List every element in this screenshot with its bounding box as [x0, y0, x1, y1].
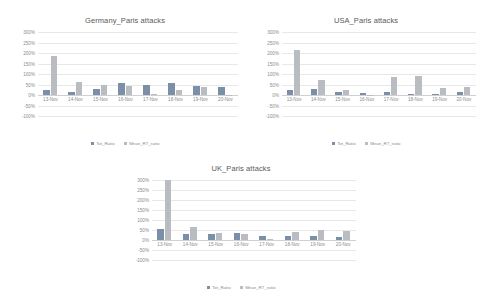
bar-group: 16-Nov: [355, 32, 379, 116]
bar-group: 14-Nov: [178, 180, 204, 260]
gridline: [282, 116, 476, 117]
x-axis-tick-label: 19-Nov: [188, 97, 213, 102]
x-axis-tick-label: 17-Nov: [138, 97, 163, 102]
legend-swatch-icon: [365, 142, 369, 146]
legend-swatch-icon: [91, 142, 95, 146]
bar-tot_ratio: [287, 90, 293, 95]
bar-tot_ratio: [335, 92, 341, 95]
y-axis-tick-label: 300%: [267, 30, 279, 35]
bar-tot_ratio: [168, 83, 175, 95]
x-axis-tick-label: 15-Nov: [331, 97, 355, 102]
chart-title: USA_Paris attacks: [252, 16, 480, 25]
bar-group: 15-Nov: [203, 180, 229, 260]
x-axis-tick-label: 20-Nov: [452, 97, 476, 102]
x-axis-tick-label: 17-Nov: [254, 242, 280, 247]
bar-mean_rt_ratio: [318, 230, 325, 240]
y-axis-tick-label: 50%: [140, 228, 149, 233]
x-axis-tick-label: 19-Nov: [428, 97, 452, 102]
legend-swatch-icon: [207, 286, 211, 290]
y-axis-tick-label: 150%: [267, 61, 279, 66]
bar-group: 15-Nov: [331, 32, 355, 116]
bar-groups: 13-Nov14-Nov15-Nov16-Nov17-Nov18-Nov19-N…: [152, 180, 356, 260]
y-axis-tick-label: 300%: [137, 178, 149, 183]
chart-germany: Germany_Paris attacks 300%250%200%150%10…: [8, 10, 242, 150]
x-axis-tick-label: 18-Nov: [280, 242, 306, 247]
legend-swatch-icon: [332, 142, 336, 146]
legend-label: Mean_RT_ratio: [129, 141, 159, 146]
x-axis-tick-label: 18-Nov: [403, 97, 427, 102]
bar-group: 19-Nov: [428, 32, 452, 116]
bar-group: 13-Nov: [38, 32, 63, 116]
x-axis-tick-label: 18-Nov: [163, 97, 188, 102]
x-axis-tick-label: 19-Nov: [305, 242, 331, 247]
x-axis-tick-label: 20-Nov: [331, 242, 357, 247]
y-axis-tick-label: 100%: [267, 72, 279, 77]
bar-mean_rt_ratio: [292, 232, 299, 240]
bar-tot_ratio: [311, 89, 317, 95]
bar-mean_rt_ratio: [440, 88, 446, 95]
x-axis-tick-label: 14-Nov: [306, 97, 330, 102]
bar-mean_rt_ratio: [101, 85, 108, 95]
bar-tot_ratio: [218, 87, 225, 95]
bar-group: 19-Nov: [305, 180, 331, 260]
x-axis-tick-label: 16-Nov: [113, 97, 138, 102]
bar-tot_ratio: [384, 92, 390, 95]
bar-tot_ratio: [285, 236, 292, 240]
bar-groups: 13-Nov14-Nov15-Nov16-Nov17-Nov18-Nov19-N…: [282, 32, 476, 116]
bar-mean_rt_ratio: [165, 180, 172, 240]
bar-mean_rt_ratio: [241, 234, 248, 240]
bar-tot_ratio: [68, 92, 75, 95]
plot-area: 300%250%200%150%100%50%0%-50%-100% 13-No…: [282, 32, 476, 116]
gridline: [38, 116, 238, 117]
chart-title: UK_Paris attacks: [122, 164, 360, 173]
bar-tot_ratio: [208, 234, 215, 240]
legend-swatch-icon: [240, 286, 244, 290]
y-axis-tick-label: 0%: [272, 93, 279, 98]
bar-mean_rt_ratio: [343, 90, 349, 95]
bar-group: 13-Nov: [282, 32, 306, 116]
y-axis-tick-label: 50%: [26, 82, 35, 87]
bar-mean_rt_ratio: [76, 82, 83, 95]
x-axis-tick-label: 15-Nov: [203, 242, 229, 247]
chart-title: Germany_Paris attacks: [8, 16, 242, 25]
bar-mean_rt_ratio: [294, 50, 300, 95]
bar-mean_rt_ratio: [391, 77, 397, 95]
legend-label: Tot_Ratio: [337, 141, 356, 146]
bar-group: 13-Nov: [152, 180, 178, 260]
bar-mean_rt_ratio: [216, 233, 223, 240]
charts-page: Germany_Paris attacks 300%250%200%150%10…: [0, 0, 484, 298]
bar-tot_ratio: [43, 90, 50, 95]
y-axis-tick-label: 250%: [137, 188, 149, 193]
y-axis-tick-label: -50%: [268, 103, 279, 108]
bar-groups: 13-Nov14-Nov15-Nov16-Nov17-Nov18-Nov19-N…: [38, 32, 238, 116]
bar-mean_rt_ratio: [415, 76, 421, 95]
legend-label: Tot_Ratio: [96, 141, 115, 146]
y-axis-tick-label: 250%: [267, 40, 279, 45]
y-axis-tick-label: 150%: [23, 61, 35, 66]
bar-tot_ratio: [143, 85, 150, 95]
bar-group: 17-Nov: [379, 32, 403, 116]
bar-group: 17-Nov: [138, 32, 163, 116]
bar-group: 19-Nov: [188, 32, 213, 116]
x-axis-tick-label: 16-Nov: [355, 97, 379, 102]
bar-tot_ratio: [310, 236, 317, 240]
bar-tot_ratio: [457, 92, 463, 95]
y-axis-tick-label: 150%: [137, 208, 149, 213]
y-axis-tick-label: -100%: [136, 258, 149, 263]
y-axis-tick-label: -50%: [24, 103, 35, 108]
bar-mean_rt_ratio: [151, 94, 158, 95]
legend-label: Mean_RT_ratio: [370, 141, 400, 146]
bar-mean_rt_ratio: [190, 227, 197, 240]
x-axis-tick-label: 15-Nov: [88, 97, 113, 102]
y-axis-tick-label: 250%: [23, 40, 35, 45]
y-axis-tick-label: 200%: [267, 51, 279, 56]
x-axis-tick-label: 17-Nov: [379, 97, 403, 102]
x-axis-tick-label: 13-Nov: [282, 97, 306, 102]
bar-mean_rt_ratio: [126, 86, 133, 95]
bar-group: 18-Nov: [163, 32, 188, 116]
y-axis-tick-label: 200%: [23, 51, 35, 56]
bar-group: 14-Nov: [306, 32, 330, 116]
bar-tot_ratio: [259, 236, 266, 240]
y-axis-tick-label: 200%: [137, 198, 149, 203]
legend: Tot_RatioMean_RT_ratio: [252, 141, 480, 146]
